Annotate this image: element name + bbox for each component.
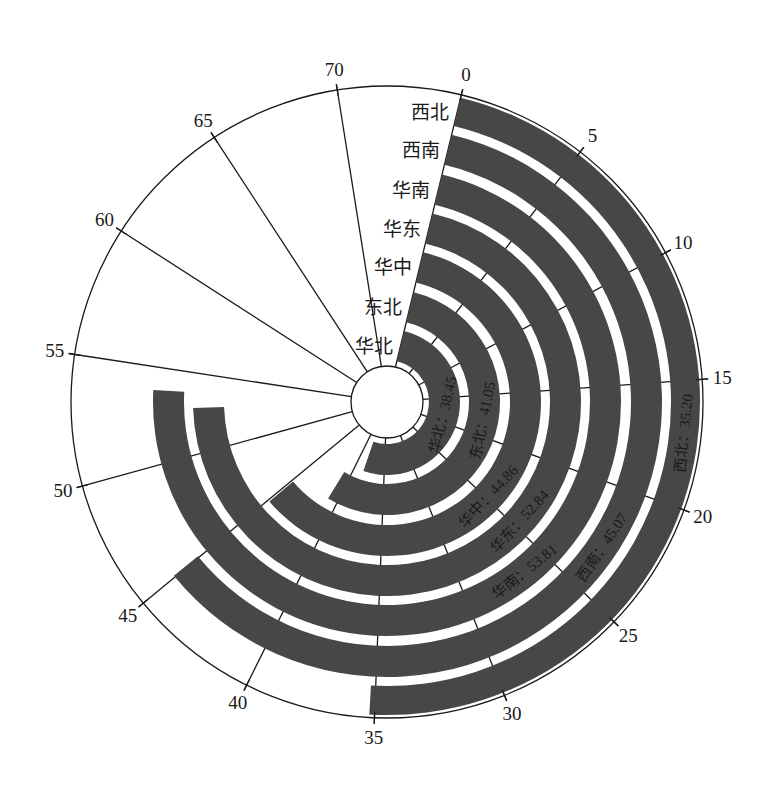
axis-tick-label: 70 [325,59,344,80]
axis-tick-label: 45 [118,605,137,626]
axis-tick-label: 65 [194,110,213,131]
category-label: 西南 [402,140,440,161]
axis-tick-label: 35 [364,727,383,748]
axis-tick [211,132,218,142]
axis-tick-label: 30 [502,703,521,724]
axis-tick-label: 10 [674,232,693,253]
axis-tick-label: 25 [619,625,638,646]
category-label: 华东 [383,219,421,240]
axis-tick-label: 5 [588,125,598,146]
gridline-spoke [211,132,367,371]
gridline-spoke [69,354,352,397]
axis-tick [577,147,584,156]
category-label: 华中 [374,257,412,278]
axis-tick-label: 55 [45,340,64,361]
axis-tick [244,680,249,691]
radial-bar-chart: 0510152025303540455055606570 华北东北华中华东华南西… [0,0,774,791]
axis-tick [696,379,708,380]
axis-tick [139,599,148,607]
axis-tick-label: 60 [95,209,114,230]
gridline-spoke [336,84,381,366]
axis-tick-label: 40 [228,692,247,713]
inner-hole-circle [351,366,423,438]
axis-tick-label: 0 [461,64,471,85]
axis-tick-label: 15 [713,367,732,388]
category-label: 东北 [364,297,402,318]
axis-tick-label: 20 [693,506,712,527]
axis-tick [69,354,81,356]
axis-tick-label: 50 [54,480,73,501]
gridline-spoke [116,228,357,383]
axis-tick [116,228,126,234]
category-label: 华南 [392,180,430,201]
category-label: 西北 [411,102,449,123]
category-label: 华北 [355,336,393,357]
